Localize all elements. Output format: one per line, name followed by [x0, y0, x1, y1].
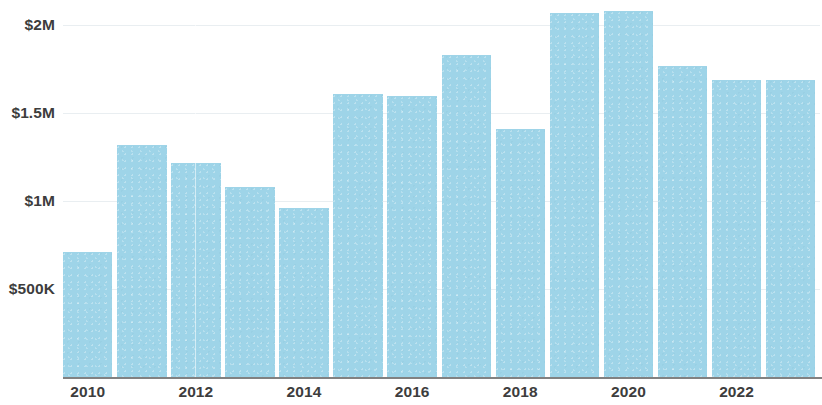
x-axis-tick-label: 2022 — [719, 383, 754, 401]
bar[interactable] — [658, 66, 707, 377]
plot-area — [63, 0, 820, 377]
bar[interactable] — [496, 129, 545, 377]
bar-series — [63, 0, 820, 377]
bar[interactable] — [712, 80, 761, 377]
x-axis-tick-label: 2018 — [503, 383, 538, 401]
bar-chart: $2M$1.5M$1M$500K 20102012201420162018202… — [0, 0, 822, 405]
bar[interactable] — [604, 11, 653, 377]
bar[interactable] — [387, 96, 436, 377]
x-axis-tick-label: 2010 — [70, 383, 105, 401]
y-axis-tick-label: $2M — [25, 16, 55, 34]
y-axis-tick-label: $1M — [25, 192, 55, 210]
y-axis: $2M$1.5M$1M$500K — [0, 0, 63, 377]
x-axis-tick-label: 2020 — [611, 383, 646, 401]
x-axis: 2010201220142016201820202022 — [63, 379, 820, 405]
y-axis-tick-label: $500K — [9, 280, 55, 298]
x-axis-tick-label: 2014 — [287, 383, 322, 401]
bar[interactable] — [442, 55, 491, 377]
bar[interactable] — [766, 80, 815, 377]
bar[interactable] — [279, 208, 328, 377]
bar[interactable] — [117, 145, 166, 377]
x-axis-tick-label: 2012 — [178, 383, 213, 401]
bar[interactable] — [171, 163, 220, 377]
bar[interactable] — [550, 13, 599, 377]
bar[interactable] — [225, 187, 274, 377]
y-axis-tick-label: $1.5M — [11, 104, 55, 122]
bar[interactable] — [333, 94, 382, 377]
x-axis-tick-label: 2016 — [395, 383, 430, 401]
bar[interactable] — [63, 252, 112, 377]
